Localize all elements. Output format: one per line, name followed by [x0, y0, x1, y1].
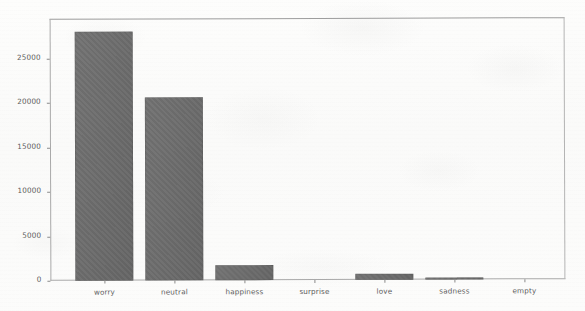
bar-happiness[interactable]: [215, 265, 273, 280]
x-axis-tick-mark-love: [384, 280, 385, 283]
x-axis-label-love: love: [377, 287, 393, 296]
y-axis-tick-15000: 15000: [0, 148, 50, 149]
y-axis-tick-25000: 25000: [0, 59, 50, 60]
bar-neutral[interactable]: [145, 97, 204, 280]
chart-axes-area: 25000 20000 15000 10000 5000 0: [0, 0, 585, 311]
y-axis-tick-label: 10000: [17, 186, 41, 195]
x-axis-tick-mark-sadness: [454, 280, 455, 283]
y-axis-tick-mark: [47, 281, 50, 282]
x-axis-tick-mark-surprise: [314, 280, 315, 283]
x-axis-label-sadness: sadness: [439, 286, 469, 295]
x-axis-label-neutral: neutral: [161, 287, 188, 296]
bar-worry[interactable]: [75, 32, 134, 281]
y-axis-tick-mark: [47, 103, 50, 104]
y-axis-tick-10000: 10000: [0, 192, 50, 193]
y-axis-tick-mark: [47, 59, 50, 60]
x-axis-label-happiness: happiness: [225, 287, 263, 296]
y-axis-tick-label: 20000: [17, 97, 41, 106]
x-axis-label-surprise: surprise: [299, 287, 329, 296]
y-axis-tick-mark: [47, 192, 50, 193]
x-axis-label-empty: empty: [513, 286, 537, 295]
y-axis-tick-mark: [47, 237, 50, 238]
x-axis-tick-mark-empty: [524, 279, 525, 282]
x-axis-tick-mark-happiness: [244, 280, 245, 283]
y-axis-tick-label: 15000: [17, 142, 41, 151]
y-axis-tick-mark: [47, 148, 50, 149]
y-axis-tick-0: 0: [0, 281, 50, 282]
y-axis-tick-5000: 5000: [0, 237, 50, 238]
y-axis-tick-label: 0: [37, 275, 42, 284]
scanned-chart-page: 25000 20000 15000 10000 5000 0: [0, 0, 585, 311]
x-axis-label-worry: worry: [94, 288, 115, 297]
y-axis-tick-label: 5000: [22, 231, 41, 240]
x-axis-tick-mark-worry: [104, 281, 105, 284]
y-axis-tick-label: 25000: [17, 53, 41, 62]
x-axis-tick-mark-neutral: [174, 280, 175, 283]
y-axis-tick-20000: 20000: [0, 103, 50, 104]
